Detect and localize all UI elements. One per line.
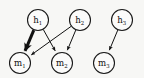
graph-node-m3[interactable]: m3 xyxy=(94,53,115,74)
graph-node-h1[interactable]: h1 xyxy=(28,10,49,31)
graph-node-m2[interactable]: m2 xyxy=(52,53,73,74)
graph-figure: h1h2h3m1m2m3 xyxy=(0,0,144,78)
graph-node-m1[interactable]: m1 xyxy=(10,53,31,74)
graph-canvas: h1h2h3m1m2m3 xyxy=(0,0,144,78)
graph-node-h3[interactable]: h3 xyxy=(112,10,133,31)
graph-edge xyxy=(43,30,55,51)
graph-node-h2[interactable]: h2 xyxy=(70,10,91,31)
graph-edge xyxy=(25,30,34,51)
graph-edge xyxy=(109,30,117,50)
graph-edge xyxy=(67,30,75,50)
